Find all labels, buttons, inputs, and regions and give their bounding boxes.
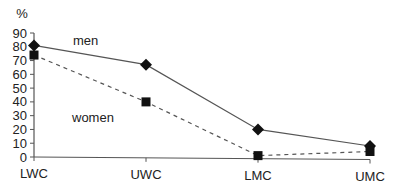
series-group — [28, 39, 376, 160]
square-marker — [142, 97, 151, 106]
series-line-men — [34, 45, 370, 146]
square-marker — [366, 147, 375, 156]
y-tick-label: 30 — [13, 108, 27, 123]
y-tick-label: 70 — [13, 53, 27, 68]
y-axis-label: % — [16, 6, 28, 21]
series-label-women: women — [71, 110, 114, 125]
line-chart: % 0102030405060708090 LWCUWCLMCUMC men w… — [0, 0, 399, 190]
series-line-women — [34, 55, 370, 156]
diamond-marker — [28, 39, 40, 51]
x-axis: LWCUWCLMCUMC — [20, 157, 385, 184]
square-marker — [254, 151, 263, 160]
y-tick-label: 50 — [13, 81, 27, 96]
y-tick-label: 80 — [13, 39, 27, 54]
x-tick-label: UWC — [130, 167, 161, 182]
series-label-men: men — [73, 33, 98, 48]
x-axis-line — [34, 157, 370, 160]
x-tick-label: UMC — [355, 169, 385, 184]
y-tick-label: 10 — [13, 136, 27, 151]
y-tick-label: 0 — [20, 150, 27, 165]
x-tick-label: LWC — [20, 166, 48, 181]
square-marker — [30, 51, 39, 60]
diamond-marker — [252, 123, 264, 135]
y-tick-label: 60 — [13, 67, 27, 82]
y-tick-label: 20 — [13, 122, 27, 137]
y-tick-label: 40 — [13, 94, 27, 109]
y-tick-label: 90 — [13, 26, 27, 41]
x-tick-label: LMC — [244, 168, 271, 183]
diamond-marker — [140, 59, 152, 71]
